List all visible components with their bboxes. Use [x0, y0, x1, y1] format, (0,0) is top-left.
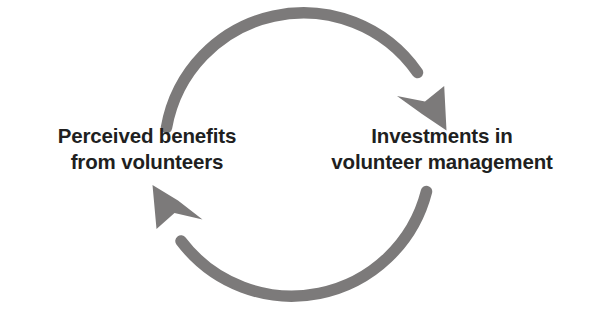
bottom-arrow-head-icon — [153, 185, 203, 229]
bottom-arrow-arc — [181, 192, 427, 297]
cycle-diagram: Perceived benefits from volunteers Inves… — [0, 0, 600, 310]
node-label-perceived-benefits: Perceived benefits from volunteers — [22, 123, 272, 175]
bottom-arrow — [153, 185, 427, 296]
node-label-line: from volunteers — [22, 149, 272, 175]
top-arrow-arc — [167, 13, 418, 128]
node-label-line: Investments in — [298, 123, 586, 149]
node-label-line: volunteer management — [298, 149, 586, 175]
node-label-line: Perceived benefits — [22, 123, 272, 149]
node-label-investments: Investments in volunteer management — [298, 123, 586, 175]
top-arrow — [167, 13, 447, 131]
